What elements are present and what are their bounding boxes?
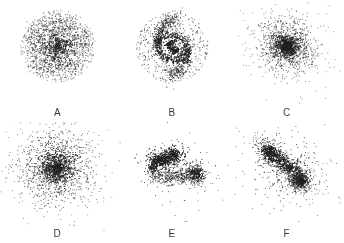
panel-label-a: A: [0, 108, 115, 118]
scatter-plot-e: [115, 122, 230, 243]
panel-c: C: [229, 0, 344, 122]
scatter-plot-b: [115, 0, 230, 122]
scatter-plot-c: [229, 0, 344, 122]
panel-f: F: [229, 122, 344, 243]
panel-d: D: [0, 122, 115, 243]
panel-b: B: [115, 0, 230, 122]
panel-e: E: [115, 122, 230, 243]
panel-label-c: C: [229, 108, 344, 118]
scatter-plot-a: [0, 0, 115, 122]
panel-a: A: [0, 0, 115, 122]
panel-label-d: D: [0, 229, 115, 239]
panel-grid: A B C D E F: [0, 0, 344, 243]
panel-label-f: F: [229, 229, 344, 239]
scatter-plot-f: [229, 122, 344, 243]
scatter-plot-d: [0, 122, 115, 243]
galaxy-simulation-figure: A B C D E F: [0, 0, 344, 243]
panel-label-b: B: [115, 108, 230, 118]
panel-label-e: E: [115, 229, 230, 239]
